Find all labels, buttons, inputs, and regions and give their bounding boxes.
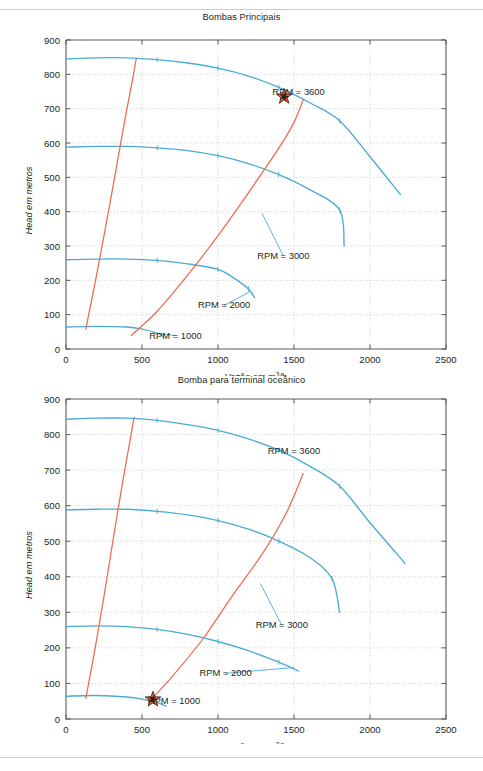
- y-tick-label: 400: [44, 206, 60, 217]
- axis-frame: [66, 40, 446, 349]
- y-tick-label: 600: [44, 138, 60, 149]
- bottom-divider-rule: [0, 757, 483, 758]
- y-axis-label: Head em metros: [24, 166, 34, 234]
- x-tick-label: 1500: [283, 354, 304, 365]
- y-tick-label: 500: [44, 172, 60, 183]
- x-tick-label: 2500: [435, 724, 456, 735]
- y-tick-label: 900: [44, 35, 60, 46]
- y-tick-label: 200: [44, 275, 60, 286]
- y-tick-label: 700: [44, 103, 60, 114]
- y-tick-label: 200: [44, 642, 60, 653]
- x-tick-label: 0: [63, 354, 68, 365]
- series-curve: [86, 59, 136, 329]
- y-tick-label: 900: [44, 394, 60, 405]
- chart-2-plot: 0100200300400500600700800900050010001500…: [0, 389, 483, 744]
- chart-bomba-terminal-oceanico: Bomba para terminal oceânico 01002003004…: [0, 375, 483, 750]
- series-curve: [86, 417, 134, 698]
- top-divider-rule: [0, 9, 483, 10]
- x-axis-label: Vazão em m3/h: [225, 741, 287, 744]
- curve-annotation-label: RPM = 2000: [199, 667, 251, 678]
- y-tick-label: 500: [44, 536, 60, 547]
- y-tick-label: 600: [44, 500, 60, 511]
- curve-annotation-label: RPM = 3000: [256, 619, 308, 630]
- x-tick-label: 2000: [359, 354, 380, 365]
- chart-1-title: Bombas Principais: [0, 12, 483, 22]
- y-tick-label: 100: [44, 309, 60, 320]
- y-tick-label: 0: [55, 714, 60, 725]
- chart-1-svg: 0100200300400500600700800900050010001500…: [0, 26, 483, 376]
- x-tick-label: 1000: [207, 354, 228, 365]
- y-tick-label: 300: [44, 607, 60, 618]
- series-curve: [66, 146, 344, 246]
- x-tick-label: 500: [134, 354, 150, 365]
- curve-annotation-label: RPM = 2000: [198, 299, 250, 310]
- y-tick-label: 800: [44, 69, 60, 80]
- x-tick-label: 1000: [207, 724, 228, 735]
- curve-annotation-label: RPM = 3600: [268, 445, 320, 456]
- x-tick-label: 1500: [283, 724, 304, 735]
- y-tick-label: 400: [44, 571, 60, 582]
- x-tick-label: 500: [134, 724, 150, 735]
- chart-1-plot: 0100200300400500600700800900050010001500…: [0, 26, 483, 376]
- x-tick-label: 2000: [359, 724, 380, 735]
- series-curve: [66, 509, 340, 612]
- y-axis-label: Head em metros: [24, 531, 34, 599]
- y-tick-label: 100: [44, 678, 60, 689]
- curve-annotation-label: RPM = 1000: [149, 330, 201, 341]
- series-curve: [151, 474, 303, 700]
- y-tick-label: 300: [44, 241, 60, 252]
- chart-page: Bombas Principais 0100200300400500600700…: [0, 0, 483, 771]
- curve-annotation-label: RPM = 3000: [257, 250, 309, 261]
- x-tick-label: 2500: [435, 354, 456, 365]
- y-tick-label: 0: [55, 344, 60, 355]
- y-tick-label: 800: [44, 429, 60, 440]
- series-curve: [66, 259, 254, 298]
- chart-2-svg: 0100200300400500600700800900050010001500…: [0, 389, 483, 744]
- x-tick-label: 0: [63, 724, 68, 735]
- chart-2-title: Bomba para terminal oceânico: [0, 375, 483, 385]
- series-curve: [66, 58, 400, 195]
- y-tick-label: 700: [44, 465, 60, 476]
- chart-bombas-principais: Bombas Principais 0100200300400500600700…: [0, 12, 483, 380]
